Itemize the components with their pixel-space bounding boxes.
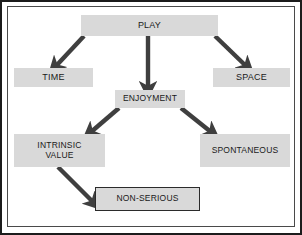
node-play[interactable]: PLAY	[81, 15, 218, 36]
node-spontaneous-label: SPONTANEOUS	[212, 146, 279, 156]
node-nonserious-label: NON-SERIOUS	[116, 194, 178, 204]
node-enjoyment-label: ENJOYMENT	[123, 94, 177, 104]
node-space-label: SPACE	[236, 72, 267, 82]
node-enjoyment[interactable]: ENJOYMENT	[115, 90, 185, 108]
node-intrinsic-label: INTRINSIC VALUE	[37, 141, 81, 161]
node-space[interactable]: SPACE	[213, 68, 290, 87]
node-time-label: TIME	[42, 72, 64, 82]
node-time[interactable]: TIME	[14, 68, 93, 87]
node-nonserious[interactable]: NON-SERIOUS	[95, 187, 200, 211]
node-play-label: PLAY	[138, 20, 161, 30]
node-intrinsic[interactable]: INTRINSIC VALUE	[14, 134, 105, 167]
diagram-canvas: PLAYTIMESPACEENJOYMENTINTRINSIC VALUESPO…	[0, 0, 302, 235]
node-spontaneous[interactable]: SPONTANEOUS	[200, 134, 290, 167]
